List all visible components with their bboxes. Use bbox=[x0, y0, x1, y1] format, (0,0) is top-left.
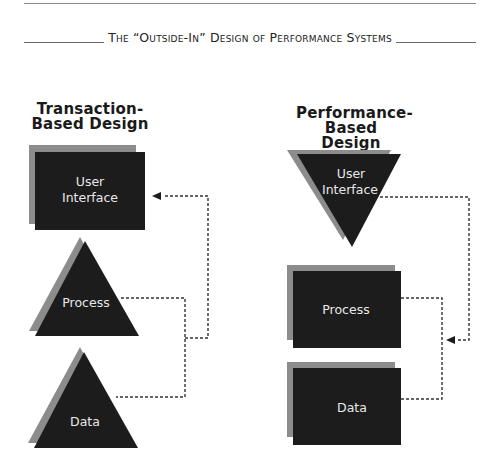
block-label: Data bbox=[337, 400, 367, 415]
block-label: User bbox=[337, 166, 366, 181]
process-data-connector bbox=[401, 298, 442, 399]
block-label: Interface bbox=[322, 182, 378, 197]
left-user-interface-block: User Interface bbox=[29, 145, 145, 230]
outside-in-diagram: User Interface Process Data User Interfa… bbox=[0, 0, 496, 468]
block-label: Data bbox=[70, 414, 100, 429]
block-label: Process bbox=[62, 295, 109, 310]
block-label: Interface bbox=[62, 190, 118, 205]
block-shape bbox=[34, 352, 138, 448]
right-user-interface-block: User Interface bbox=[287, 150, 401, 247]
arrow-left-icon bbox=[446, 336, 455, 344]
left-process-block: Process bbox=[29, 237, 139, 336]
block-label: Process bbox=[322, 302, 369, 317]
right-data-block: Data bbox=[287, 362, 401, 445]
arrow-left-icon bbox=[152, 192, 161, 200]
block-label: User bbox=[76, 174, 105, 189]
block-shape bbox=[35, 241, 139, 336]
right-process-block: Process bbox=[287, 265, 401, 348]
process-data-connector bbox=[116, 298, 185, 397]
